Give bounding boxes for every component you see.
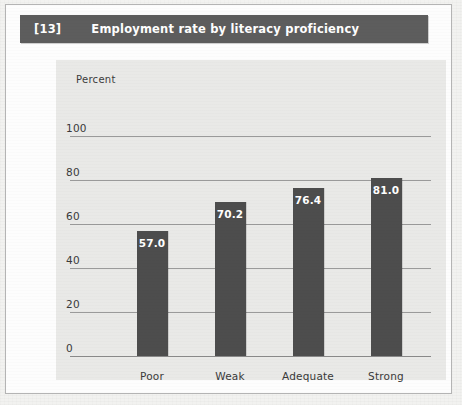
y-axis-tick-label: 60	[66, 210, 80, 224]
figure-title-bar: [13] Employment rate by literacy profici…	[20, 15, 428, 43]
gridline-100	[70, 136, 431, 137]
figure-title: Employment rate by literacy proficiency	[91, 22, 359, 36]
y-axis-tick-label: 80	[66, 166, 80, 180]
chart-panel: Percent 02040608010057.0Poor70.2Weak76.4…	[56, 60, 446, 380]
scan-page-background: [13] Employment rate by literacy profici…	[0, 0, 462, 405]
gridline-0	[70, 356, 431, 357]
bar-weak: 70.2	[215, 202, 246, 356]
bar-strong: 81.0	[371, 178, 402, 356]
x-axis-category-label: Weak	[215, 370, 245, 382]
figure-number: [13]	[34, 22, 61, 36]
y-axis-tick-label: 40	[66, 254, 80, 268]
y-axis-tick-label: 20	[66, 298, 80, 312]
plot-area: 02040608010057.0Poor70.2Weak76.4Adequate…	[56, 60, 446, 380]
bar-poor: 57.0	[137, 231, 168, 356]
y-axis-tick-label: 0	[66, 342, 73, 356]
x-axis-category-label: Adequate	[282, 370, 334, 382]
figure-frame: [13] Employment rate by literacy profici…	[5, 4, 452, 394]
bar-value-label: 81.0	[371, 184, 402, 196]
y-axis-tick-label: 100	[66, 122, 87, 136]
bar-value-label: 76.4	[293, 194, 324, 206]
bar-value-label: 57.0	[137, 237, 168, 249]
bar-value-label: 70.2	[215, 208, 246, 220]
x-axis-category-label: Poor	[140, 370, 164, 382]
x-axis-category-label: Strong	[368, 370, 404, 382]
bar-adequate: 76.4	[293, 188, 324, 356]
